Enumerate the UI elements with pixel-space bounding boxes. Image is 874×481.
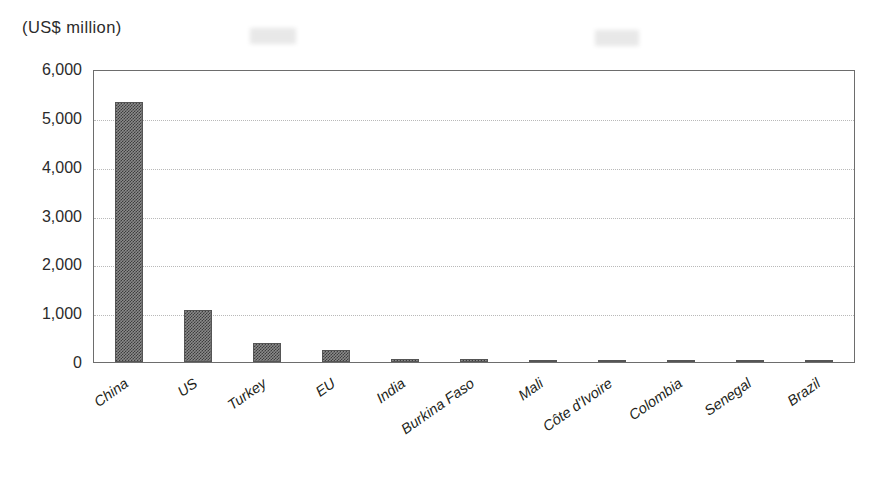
y-axis-tick-label: 3,000 <box>2 208 82 226</box>
bar-slot <box>370 71 439 362</box>
bar-slot <box>232 71 301 362</box>
bar-slot <box>94 71 163 362</box>
x-axis-label-slot: US <box>162 363 231 473</box>
bar[interactable] <box>391 359 419 362</box>
x-axis-tick-labels: ChinaUSTurkeyEUIndiaBurkina FasoMaliCôte… <box>93 363 855 473</box>
bar[interactable] <box>253 343 281 362</box>
bar[interactable] <box>736 360 764 362</box>
y-axis-tick-label: 0 <box>2 354 82 372</box>
x-axis-label-slot: Brazil <box>786 363 855 473</box>
y-axis-tick-label: 1,000 <box>2 305 82 323</box>
bar-slot <box>301 71 370 362</box>
bar[interactable] <box>805 360 833 362</box>
bar[interactable] <box>598 360 626 362</box>
bar-slot <box>578 71 647 362</box>
bar-slot <box>163 71 232 362</box>
x-axis-tick-label: EU <box>329 363 355 388</box>
x-axis-label-slot: EU <box>301 363 370 473</box>
x-axis-tick-label-text: Brazil <box>785 375 824 409</box>
bar-slot <box>785 71 854 362</box>
scan-artifact <box>250 28 296 44</box>
plot-area <box>93 70 855 363</box>
bar-slot <box>647 71 716 362</box>
x-axis-tick-label: US <box>191 363 217 388</box>
y-axis-tick-label: 4,000 <box>2 159 82 177</box>
x-axis-label-slot: Colombia <box>647 363 716 473</box>
x-axis-tick-label-text: US <box>174 375 200 400</box>
bar-slot <box>439 71 508 362</box>
x-axis-tick-label-text: China <box>91 375 131 410</box>
bar[interactable] <box>667 360 695 362</box>
x-axis-label-slot: Burkina Faso <box>439 363 508 473</box>
y-axis-tick-labels: 6,000 5,000 4,000 3,000 2,000 1,000 0 <box>0 70 82 363</box>
x-axis-tick-label-text: Mali <box>515 375 546 403</box>
x-axis-tick-label-text: Turkey <box>225 375 270 413</box>
bar-slot <box>509 71 578 362</box>
bar-slot <box>716 71 785 362</box>
x-axis-label-slot: China <box>93 363 162 473</box>
x-axis-tick-label: Mali <box>537 360 568 388</box>
bars-layer <box>94 71 854 362</box>
bar[interactable] <box>460 359 488 362</box>
bar[interactable] <box>529 360 557 362</box>
x-axis-tick-label-text: India <box>373 375 408 406</box>
scan-artifact <box>595 30 639 46</box>
bar[interactable] <box>184 310 212 362</box>
x-axis-label-slot: Turkey <box>232 363 301 473</box>
y-axis-tick-label: 2,000 <box>2 256 82 274</box>
y-axis-unit-label: (US$ million) <box>22 18 122 37</box>
y-axis-tick-label: 6,000 <box>2 61 82 79</box>
bar[interactable] <box>322 350 350 362</box>
bar[interactable] <box>115 102 143 362</box>
y-axis-tick-label: 5,000 <box>2 110 82 128</box>
x-axis-tick-label-text: EU <box>313 375 339 400</box>
bar-chart: (US$ million) 6,000 5,000 4,000 3,000 2,… <box>0 0 874 481</box>
x-axis-label-slot: Senegal <box>716 363 785 473</box>
